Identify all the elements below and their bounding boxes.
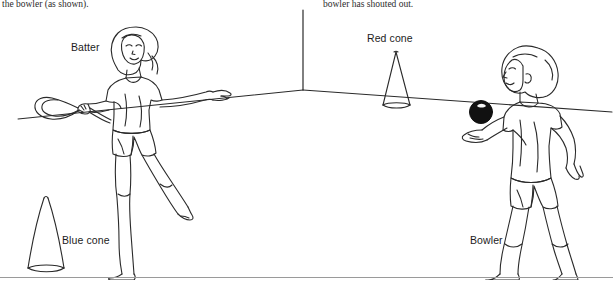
bowler-shorts-fold [517, 190, 523, 207]
batter-neck-left [126, 70, 127, 78]
red-cone-left-edge [383, 52, 396, 105]
bowler-ear [525, 74, 531, 83]
batter-arm-extended-top [162, 91, 213, 100]
batter-arm-bat-top [88, 101, 106, 104]
bowler-neck-back [536, 94, 538, 103]
bowler-shirt-fold-b [534, 122, 538, 172]
bowler-eye [509, 68, 516, 69]
batter-arm-extended-bottom [160, 99, 213, 107]
blue-cone-base-back [28, 265, 64, 268]
floor-line-right [303, 90, 612, 112]
bowler-hand-fingers-a [468, 134, 479, 137]
blue-cone [28, 197, 64, 272]
batter-knee-left [118, 194, 130, 196]
batter-knee-right [160, 184, 172, 187]
bowler-shorts-split [531, 185, 533, 207]
bowler-arm-back-inner [551, 128, 568, 168]
bowler-shirt-fold-a [520, 120, 522, 166]
bowler-shorts [510, 178, 558, 209]
bowler-mouth [506, 83, 514, 85]
bowler-shirt [503, 102, 562, 183]
batter-shorts-fold [118, 139, 124, 154]
bowler-nose [503, 72, 507, 78]
ball [470, 101, 493, 124]
batter-hand-right [213, 91, 231, 96]
batter-leg-right-back [154, 154, 188, 207]
bowler-arm-front-bottom [487, 128, 507, 140]
batter-shirt-fold-a [125, 94, 127, 126]
batter-mouth [130, 58, 139, 60]
scene-illustration: Batter Red cone Blue cone Bowler [0, 8, 613, 280]
bowler-hand-back-fingers [566, 168, 579, 179]
bowler-face [504, 59, 523, 91]
batter-foot-right [178, 207, 193, 220]
bowler-hand-back [574, 164, 583, 177]
blue-cone-left-edge [28, 198, 44, 268]
batter-grip-knuckle-a [81, 106, 84, 110]
batter-shirt-fold-c [114, 102, 121, 108]
bowler-hand-fingers-b [470, 138, 483, 139]
bowler-leg-front-inner [518, 207, 529, 274]
batter-neck-right [139, 68, 141, 77]
red-cone [383, 51, 410, 108]
page-bottom-rule [0, 277, 613, 278]
batter-leg-left-inner [130, 155, 134, 274]
batter-eye-left [126, 45, 132, 46]
label-red-cone: Red cone [367, 32, 413, 44]
bowler-leg-back-outer [557, 206, 576, 274]
red-cone-base-back [383, 103, 410, 105]
batter-shirt-fold-b [139, 96, 141, 127]
batter-nose [132, 51, 135, 55]
bowler-hair-strand [545, 60, 553, 80]
blue-cone-right-edge [48, 198, 64, 268]
blue-cone-base-front [28, 268, 64, 272]
label-batter: Batter [71, 41, 100, 53]
batter-eye-right [136, 45, 142, 46]
label-bowler: Bowler [470, 234, 503, 246]
bowler-shirt-fold-c [513, 130, 526, 145]
bowler-knee-back [552, 244, 568, 247]
batter-shorts [112, 130, 156, 156]
red-cone-base-front [383, 105, 410, 108]
batter-grip-knuckle-b [84, 105, 86, 109]
batter-shorts-split [131, 136, 133, 155]
batter-leg-left-outer [115, 154, 122, 274]
label-blue-cone: Blue cone [62, 234, 110, 246]
bowler-knee-front [505, 244, 522, 247]
blue-cone-tip [44, 197, 48, 199]
bowler-fringe [513, 54, 537, 57]
